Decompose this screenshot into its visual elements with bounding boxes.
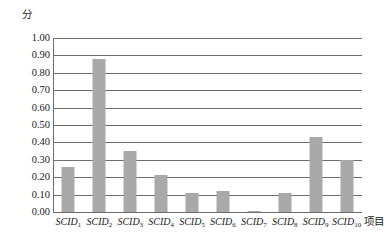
bar-slot [208,38,239,212]
bar[interactable] [186,193,199,212]
x-axis-tick-label: SCID4 [148,216,174,228]
y-axis-tick-label: 0.70 [0,85,50,96]
x-axis-tick-label: SCID7 [241,216,267,228]
bar[interactable] [124,151,137,212]
bar-slot [53,38,84,212]
bar[interactable] [247,211,260,212]
bar[interactable] [62,167,75,212]
x-axis-tick-label: SCID2 [86,216,112,228]
y-axis-tick-label: 0.00 [0,207,50,218]
plot-area [53,38,362,212]
y-axis-unit-label: 分 [22,9,32,20]
y-axis-tick-label: 1.00 [0,33,50,44]
bar-chart: 分 1.000.900.800.700.600.500.400.300.200.… [0,0,390,243]
y-axis-tick-label: 0.90 [0,50,50,61]
bar-slot [269,38,300,212]
gridline [53,212,362,213]
bar[interactable] [309,137,322,212]
x-axis-tick-label: SCID1 [56,216,82,228]
bar-series [53,38,362,212]
x-axis-tick-label: SCID9 [303,216,329,228]
y-axis-tick-label: 0.10 [0,189,50,200]
bar-slot [84,38,115,212]
bar-slot [238,38,269,212]
bar[interactable] [216,191,229,212]
bar-slot [300,38,331,212]
x-axis-tick-label: SCID10 [332,216,361,228]
bar[interactable] [93,59,106,212]
bar[interactable] [340,160,353,212]
x-axis-title: 项目 [364,216,384,227]
y-axis-tick-label: 0.50 [0,120,50,131]
bar-slot [331,38,362,212]
x-axis-tick-label: SCID6 [210,216,236,228]
bar[interactable] [278,193,291,212]
x-axis-tick-labels: SCID1SCID2SCID3SCID4SCID5SCID6SCID7SCID8… [53,214,362,236]
y-axis-tick-label: 0.40 [0,137,50,148]
x-axis-tick-label: SCID3 [117,216,143,228]
y-axis-tick-label: 0.60 [0,102,50,113]
y-axis-tick-labels: 1.000.900.800.700.600.500.400.300.200.10… [0,38,50,212]
y-axis-tick-label: 0.20 [0,172,50,183]
x-axis-tick-label: SCID8 [272,216,298,228]
bar[interactable] [155,175,168,212]
x-axis-tick-label: SCID5 [179,216,205,228]
bar-slot [115,38,146,212]
bar-slot [146,38,177,212]
y-axis-tick-label: 0.30 [0,155,50,166]
y-axis-tick-label: 0.80 [0,68,50,79]
bar-slot [177,38,208,212]
